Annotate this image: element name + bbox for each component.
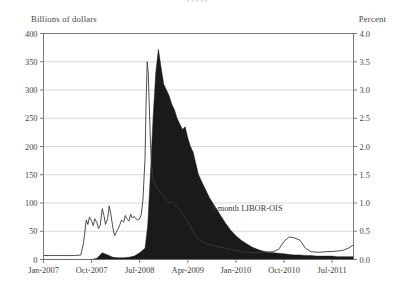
svg-text:3-month LIBOR-OIS: 3-month LIBOR-OIS xyxy=(211,204,283,213)
svg-text:0.5: 0.5 xyxy=(360,227,370,236)
svg-text:4.0: 4.0 xyxy=(360,30,370,39)
svg-text:Jan-2010: Jan-2010 xyxy=(221,266,252,275)
svg-text:Jul-2008: Jul-2008 xyxy=(125,266,154,275)
svg-text:50: 50 xyxy=(29,227,37,236)
svg-text:1.0: 1.0 xyxy=(360,199,370,208)
svg-text:100: 100 xyxy=(25,199,38,208)
chart-figure: • • • • • Billions of dollars Percent 05… xyxy=(0,0,394,283)
svg-text:3.5: 3.5 xyxy=(360,58,370,67)
svg-text:250: 250 xyxy=(25,114,38,123)
svg-text:0.0: 0.0 xyxy=(360,256,370,265)
svg-text:Jul-2011: Jul-2011 xyxy=(318,266,347,275)
svg-text:2.5: 2.5 xyxy=(360,114,370,123)
chart-plot-area: 050100150200250300350400 0.00.51.01.52.0… xyxy=(0,0,394,283)
svg-text:Oct-2010: Oct-2010 xyxy=(268,266,300,275)
svg-text:0: 0 xyxy=(33,256,37,265)
y-axis-ticks-left: 050100150200250300350400 xyxy=(25,30,44,265)
y-axis-ticks-right: 0.00.51.01.52.02.53.03.54.0 xyxy=(354,30,370,265)
clipped-top-caption: • • • • • xyxy=(0,0,394,4)
svg-text:3.0: 3.0 xyxy=(360,86,370,95)
svg-text:Jan-2007: Jan-2007 xyxy=(28,266,59,275)
svg-text:300: 300 xyxy=(25,86,38,95)
svg-text:Oct-2007: Oct-2007 xyxy=(76,266,108,275)
area-series-liquidity-facilities xyxy=(44,49,354,259)
x-axis-ticks: Jan-2007Oct-2007Jul-2008Apr-2009Jan-2010… xyxy=(28,260,346,275)
svg-text:150: 150 xyxy=(25,171,38,180)
right-axis-title: Percent xyxy=(359,14,386,24)
svg-text:400: 400 xyxy=(25,30,38,39)
svg-text:Apr-2009: Apr-2009 xyxy=(172,266,204,275)
svg-text:350: 350 xyxy=(25,58,38,67)
svg-text:2.0: 2.0 xyxy=(360,143,370,152)
svg-text:200: 200 xyxy=(25,143,38,152)
svg-text:1.5: 1.5 xyxy=(360,171,370,180)
left-axis-title: Billions of dollars xyxy=(31,14,97,24)
series-annotation: 3-month LIBOR-OIS xyxy=(211,204,283,213)
